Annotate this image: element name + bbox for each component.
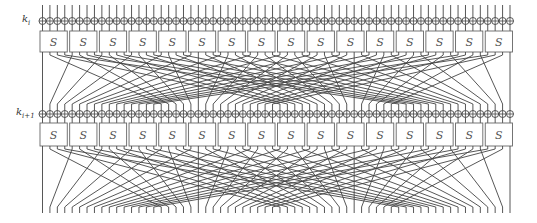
sbox-label: S [495, 36, 503, 49]
perm-wire [362, 55, 473, 104]
sbox-label: S [169, 129, 177, 142]
sbox-label: S [317, 36, 325, 49]
perm-wire [176, 149, 310, 207]
sbox-label: S [465, 36, 473, 49]
perm-wire [65, 149, 132, 207]
sbox-label: S [406, 129, 414, 142]
perm-wire [65, 149, 399, 207]
sbox-label: S [347, 129, 355, 142]
perm-wire [65, 55, 399, 104]
sbox-label: S [80, 36, 88, 49]
perm-wire [87, 55, 221, 104]
perm-wire [332, 55, 466, 104]
sbox-label: S [198, 129, 206, 142]
sbox-label: S [258, 36, 266, 49]
sbox-label: S [465, 129, 473, 142]
sbox-label: S [287, 36, 295, 49]
perm-wire [362, 149, 473, 207]
sbox-label: S [228, 36, 236, 49]
perm-wire [421, 55, 488, 104]
sbox-label: S [198, 36, 206, 49]
sbox-label: S [495, 129, 503, 142]
sbox-label: S [169, 36, 177, 49]
perm-wire [243, 149, 377, 207]
sbox-label: S [50, 129, 58, 142]
sbox-label: S [436, 129, 444, 142]
perm-wire [154, 149, 488, 207]
sbox-label: S [376, 36, 384, 49]
spn-diagram: SSSSSSSSSSSSSSSSSSSSSSSSSSSSSSSS [0, 0, 537, 223]
perm-wire [80, 149, 191, 207]
perm-wire [480, 55, 502, 104]
sbox-label: S [109, 129, 117, 142]
perm-wire [480, 149, 502, 207]
sbox-label: S [139, 129, 147, 142]
sbox-label: S [406, 36, 414, 49]
perm-wire [384, 149, 473, 207]
sbox-label: S [50, 36, 58, 49]
sbox-label: S [376, 129, 384, 142]
perm-wire [451, 149, 496, 207]
sbox-label: S [258, 129, 266, 142]
perm-wire [80, 55, 191, 104]
sbox-label: S [436, 36, 444, 49]
perm-wire [421, 149, 488, 207]
perm-wire [154, 55, 488, 104]
sbox-label: S [228, 129, 236, 142]
perm-wire [50, 55, 72, 104]
perm-wire [80, 55, 169, 104]
sbox-label: S [287, 129, 295, 142]
perm-wire [65, 55, 132, 104]
perm-wire [57, 149, 102, 207]
perm-wire [384, 55, 473, 104]
sbox-label: S [80, 129, 88, 142]
sbox-label: S [109, 36, 117, 49]
sbox-label: S [139, 36, 147, 49]
sbox-label: S [347, 36, 355, 49]
sbox-label: S [317, 129, 325, 142]
perm-wire [332, 149, 466, 207]
perm-wire [50, 149, 72, 207]
perm-wire [80, 149, 169, 207]
perm-wire [87, 149, 221, 207]
